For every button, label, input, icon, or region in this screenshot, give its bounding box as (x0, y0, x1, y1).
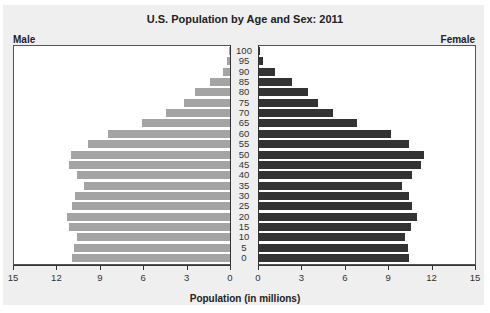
male-bar-10 (77, 233, 230, 241)
male-tick-label: 0 (220, 272, 240, 283)
male-bar-85 (210, 78, 230, 86)
female-tick (432, 265, 433, 270)
male-tick (56, 265, 57, 270)
male-tick-label: 15 (3, 272, 23, 283)
female-tick-label: 6 (335, 272, 355, 283)
male-bar-75 (184, 99, 230, 107)
female-bar-100 (259, 47, 260, 55)
female-bar-35 (259, 182, 402, 190)
male-tick-label: 12 (46, 272, 66, 283)
female-bar-55 (259, 140, 409, 148)
male-tick (187, 265, 188, 270)
age-label-55: 55 (230, 139, 258, 149)
female-bar-45 (259, 161, 421, 169)
female-tick (475, 265, 476, 270)
male-x-axis (13, 265, 231, 266)
female-bar-0 (259, 254, 409, 262)
male-bar-0 (72, 254, 230, 262)
female-bar-60 (259, 130, 391, 138)
male-bar-50 (71, 151, 230, 159)
female-bar-70 (259, 109, 333, 117)
female-x-axis (258, 265, 476, 266)
female-label: Female (441, 34, 475, 45)
age-label-10: 10 (230, 232, 258, 242)
male-bar-65 (142, 119, 230, 127)
male-tick (13, 265, 14, 270)
female-bar-5 (259, 244, 408, 252)
female-bar-30 (259, 192, 409, 200)
female-tick (301, 265, 302, 270)
age-label-65: 65 (230, 118, 258, 128)
age-label-0: 0 (230, 253, 258, 263)
female-tick-label: 12 (422, 272, 442, 283)
male-tick (230, 265, 231, 270)
female-bar-85 (259, 78, 292, 86)
male-bar-5 (74, 244, 230, 252)
male-tick-label: 6 (133, 272, 153, 283)
male-bar-55 (88, 140, 230, 148)
age-label-95: 95 (230, 56, 258, 66)
female-bar-40 (259, 171, 412, 179)
female-bar-90 (259, 68, 275, 76)
male-tick (143, 265, 144, 270)
female-bar-65 (259, 119, 357, 127)
male-tick-label: 9 (90, 272, 110, 283)
age-label-80: 80 (230, 87, 258, 97)
male-bar-20 (67, 213, 230, 221)
age-label-40: 40 (230, 170, 258, 180)
female-bar-50 (259, 151, 424, 159)
male-bar-70 (166, 109, 230, 117)
age-label-50: 50 (230, 150, 258, 160)
chart-title: U.S. Population by Age and Sex: 2011 (0, 13, 490, 25)
male-bar-30 (75, 192, 230, 200)
male-tick-label: 3 (177, 272, 197, 283)
male-tick (100, 265, 101, 270)
male-bar-25 (72, 202, 230, 210)
female-bar-20 (259, 213, 417, 221)
female-tick-label: 15 (465, 272, 485, 283)
female-bar-95 (259, 57, 263, 65)
female-tick-label: 0 (248, 272, 268, 283)
age-label-25: 25 (230, 201, 258, 211)
female-bar-10 (259, 233, 405, 241)
female-tick (258, 265, 259, 270)
male-bar-40 (77, 171, 230, 179)
male-bar-35 (84, 182, 230, 190)
female-bar-15 (259, 223, 411, 231)
male-label: Male (13, 34, 35, 45)
x-axis-label: Population (in millions) (0, 293, 490, 304)
male-bar-60 (108, 130, 230, 138)
female-bar-75 (259, 99, 318, 107)
male-bar-15 (69, 223, 230, 231)
male-bar-45 (69, 161, 230, 169)
female-tick (388, 265, 389, 270)
female-tick-label: 9 (378, 272, 398, 283)
female-tick-label: 3 (291, 272, 311, 283)
female-tick (345, 265, 346, 270)
male-bar-90 (223, 68, 230, 76)
male-bar-80 (195, 88, 230, 96)
female-bar-25 (259, 202, 412, 210)
female-bar-80 (259, 88, 308, 96)
